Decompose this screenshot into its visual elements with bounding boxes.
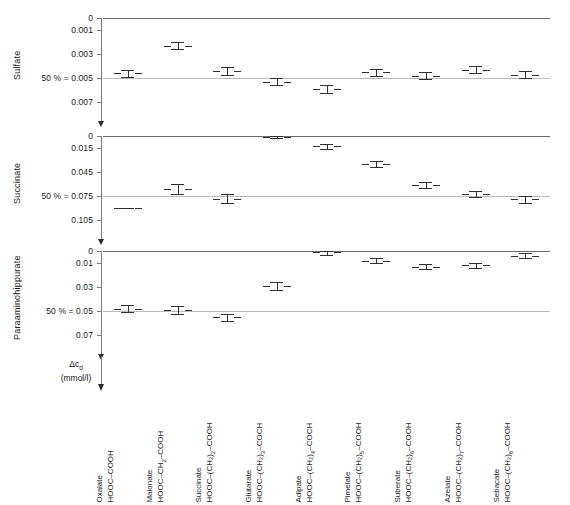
formula-prefix: HOOC–COOH [106, 451, 115, 503]
error-bar-cap-lower [171, 194, 184, 195]
y-tick [97, 30, 102, 31]
error-bar-stem [178, 184, 179, 194]
mean-marker-right [234, 317, 241, 318]
formula-subscript: 2 [210, 451, 216, 454]
error-bar-cap-lower [221, 203, 234, 204]
value-axis-symbol-sub: d [79, 364, 83, 371]
y-tick [97, 136, 102, 137]
error-bar-stem [178, 42, 179, 49]
y-tick [97, 18, 102, 19]
mean-marker-left [114, 73, 121, 74]
error-bar-stem [227, 314, 228, 321]
y-tick-label: 0.105 [71, 215, 93, 225]
mean-marker-right [185, 310, 192, 311]
x-category-formula: HOOC–CH2–COOH [155, 431, 168, 503]
formula-prefix: HOOC–(CH₂) [354, 455, 363, 503]
mean-marker-right [383, 261, 390, 262]
mean-marker-right [433, 185, 440, 186]
error-bar-stem [426, 72, 427, 79]
value-axis-symbol: Δcd [48, 359, 104, 373]
formula-subscript: 5 [359, 451, 365, 454]
mean-marker-left [263, 82, 270, 83]
x-category-name: Succinate [195, 423, 206, 503]
formula-suffix: –COOH [205, 423, 214, 451]
formula-suffix: –COOH [155, 431, 164, 459]
mean-marker-left [313, 252, 320, 253]
mean-marker-right [135, 73, 142, 74]
y-tick-label: 0 [88, 13, 93, 23]
error-bar-stem [426, 264, 427, 269]
formula-prefix: HOOC–(CH₂) [304, 455, 313, 503]
error-bar-cap-lower [419, 269, 432, 270]
y-tick-label: 0.01 [76, 258, 93, 268]
mean-marker-left [213, 71, 220, 72]
x-category-formula: HOOC–COOH [106, 451, 119, 503]
mean-marker-left [412, 185, 419, 186]
mean-marker-left [313, 146, 320, 147]
y-axis-arrow-icon [98, 239, 104, 245]
mean-marker-right [433, 267, 440, 268]
error-bar-stem [525, 253, 526, 258]
x-category-label: SebacateHOOC–(CH₂)8–COOH [516, 411, 570, 503]
x-category-formula: HOOC–(CH₂)7–COOH [453, 423, 466, 503]
error-bar-cap-lower [469, 197, 482, 198]
error-bar-stem [277, 136, 278, 138]
mean-marker-right [234, 199, 241, 200]
formula-suffix: –COCH [255, 423, 264, 451]
y-tick [97, 220, 102, 221]
y-tick-label: 0 [88, 246, 93, 256]
y-tick [97, 196, 102, 197]
error-bar-cap-lower [469, 268, 482, 269]
error-bar-cap-lower [370, 167, 383, 168]
mean-marker-left [511, 199, 518, 200]
mean-marker-left [313, 89, 320, 90]
value-axis-symbol-main: Δc [69, 359, 79, 369]
error-bar-stem [426, 182, 427, 188]
error-bar-cap-lower [121, 312, 134, 313]
mean-marker-left [114, 208, 121, 209]
x-category-name: Oxalate [95, 451, 106, 503]
mean-marker-right [433, 76, 440, 77]
x-category-formula: HOOC–(CH₂)2–COOH [205, 423, 218, 503]
formula-suffix: –COOH [453, 423, 462, 451]
mean-marker-right [532, 75, 539, 76]
y-tick [97, 148, 102, 149]
mean-marker-left [114, 309, 121, 310]
mean-marker-left [362, 164, 369, 165]
mean-marker-left [164, 46, 171, 47]
y-axis-spine [101, 251, 102, 355]
formula-suffix: –COOH [354, 423, 363, 451]
error-bar-stem [227, 67, 228, 74]
error-bar-cap-lower [469, 73, 482, 74]
error-bar-cap-lower [121, 77, 134, 78]
zero-baseline [103, 136, 550, 137]
error-bar-cap-lower [320, 255, 333, 256]
y-tick [97, 263, 102, 264]
mean-marker-right [135, 208, 142, 209]
formula-subscript: 4 [309, 451, 315, 454]
y-tick-label: 0.001 [71, 25, 93, 35]
mean-marker-left [412, 76, 419, 77]
error-bar-stem [525, 71, 526, 78]
error-bar-cap-lower [270, 138, 283, 139]
mean-marker-left [511, 75, 518, 76]
error-bar-stem [376, 258, 377, 263]
y-tick [97, 172, 102, 173]
formula-prefix: HOOC–(CH₂) [453, 455, 462, 503]
error-bar-stem [128, 70, 129, 77]
mean-marker-left [263, 137, 270, 138]
mean-marker-left [462, 194, 469, 195]
mean-marker-right [483, 70, 490, 71]
mean-marker-right [483, 194, 490, 195]
y-tick [97, 78, 102, 79]
error-bar-stem [327, 144, 328, 149]
mean-marker-left [263, 286, 270, 287]
error-bar-stem [476, 263, 477, 268]
mean-marker-right [334, 89, 341, 90]
x-category-formula: HOOC–(CH₂)8–COOH [503, 423, 516, 503]
error-bar-stem [327, 251, 328, 255]
mean-marker-right [135, 309, 142, 310]
mean-marker-left [164, 310, 171, 311]
error-bar-cap-lower [221, 75, 234, 76]
y-tick-label: 0.07 [76, 330, 93, 340]
